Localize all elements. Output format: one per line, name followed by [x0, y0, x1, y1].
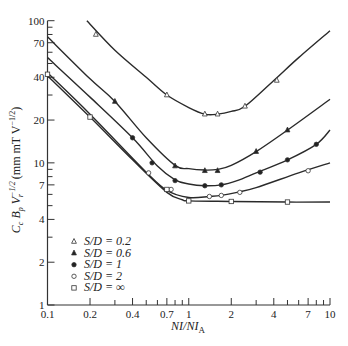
marker-series-3 [207, 194, 211, 198]
x-tick-label: 2 [229, 308, 235, 320]
marker-series-4 [165, 187, 169, 191]
legend-marker-icon [72, 286, 76, 290]
svg-text:Cc Bp V−1/2r (mm mT V−1/2): Cc Bp V−1/2r (mm mT V−1/2) [8, 107, 25, 233]
marker-series-2 [314, 142, 318, 146]
curve-series-0 [87, 21, 330, 115]
x-tick-label: 4 [271, 308, 277, 320]
marker-series-2 [203, 184, 207, 188]
curve-series-4 [48, 76, 331, 202]
marker-series-2 [173, 178, 177, 182]
x-tick-label: 0.2 [83, 308, 97, 320]
legend-marker-icon [72, 250, 77, 255]
y-tick-label: 4 [39, 213, 45, 225]
curves [48, 21, 331, 202]
legend-item-label: S/D = ∞ [84, 280, 125, 294]
marker-series-2 [258, 170, 262, 174]
marker-series-2 [285, 158, 289, 162]
y-tick-label: 70 [34, 37, 46, 49]
curve-series-2 [48, 58, 331, 186]
legend-marker-icon [72, 239, 77, 244]
curve-series-3 [48, 73, 331, 198]
y-tick-label: 20 [34, 114, 46, 126]
y-tick-label: 10 [34, 157, 46, 169]
marker-series-4 [285, 200, 289, 204]
y-axis-label: Cc Bp V−1/2r (mm mT V−1/2) [8, 107, 25, 233]
marker-series-3 [219, 193, 223, 197]
legend: S/D = 0.2S/D = 0.6S/D = 1S/D = 2S/D = ∞ [72, 234, 132, 294]
marker-series-3 [238, 190, 242, 194]
legend-marker-icon [72, 274, 76, 278]
data-markers [45, 31, 318, 204]
marker-series-4 [229, 199, 233, 203]
marker-series-2 [219, 183, 223, 187]
x-tick-label: 0.4 [126, 308, 140, 320]
y-tick-label: 40 [34, 71, 46, 83]
y-tick-label: 2 [39, 256, 45, 268]
axis-labels: NI/NIA Cc Bp V−1/2r (mm mT V−1/2) [8, 107, 205, 335]
x-tick-label: 10 [325, 308, 337, 320]
marker-series-2 [130, 136, 134, 140]
y-tick-label: 100 [28, 15, 45, 27]
marker-series-4 [187, 199, 191, 203]
curve-series-1 [48, 37, 331, 170]
x-axis-label: NI/NIA [170, 319, 205, 335]
legend-marker-icon [72, 263, 76, 267]
y-tick-label: 1 [39, 299, 45, 311]
marker-series-2 [150, 161, 154, 165]
marker-series-4 [45, 72, 49, 76]
marker-series-3 [306, 169, 310, 173]
marker-series-3 [169, 187, 173, 191]
x-tick-label: 7 [305, 308, 311, 320]
chart: 0.10.20.40.7124710124710204070100 S/D = … [0, 0, 348, 346]
marker-series-3 [146, 171, 150, 175]
y-tick-label: 7 [39, 179, 45, 191]
marker-series-4 [88, 115, 92, 119]
